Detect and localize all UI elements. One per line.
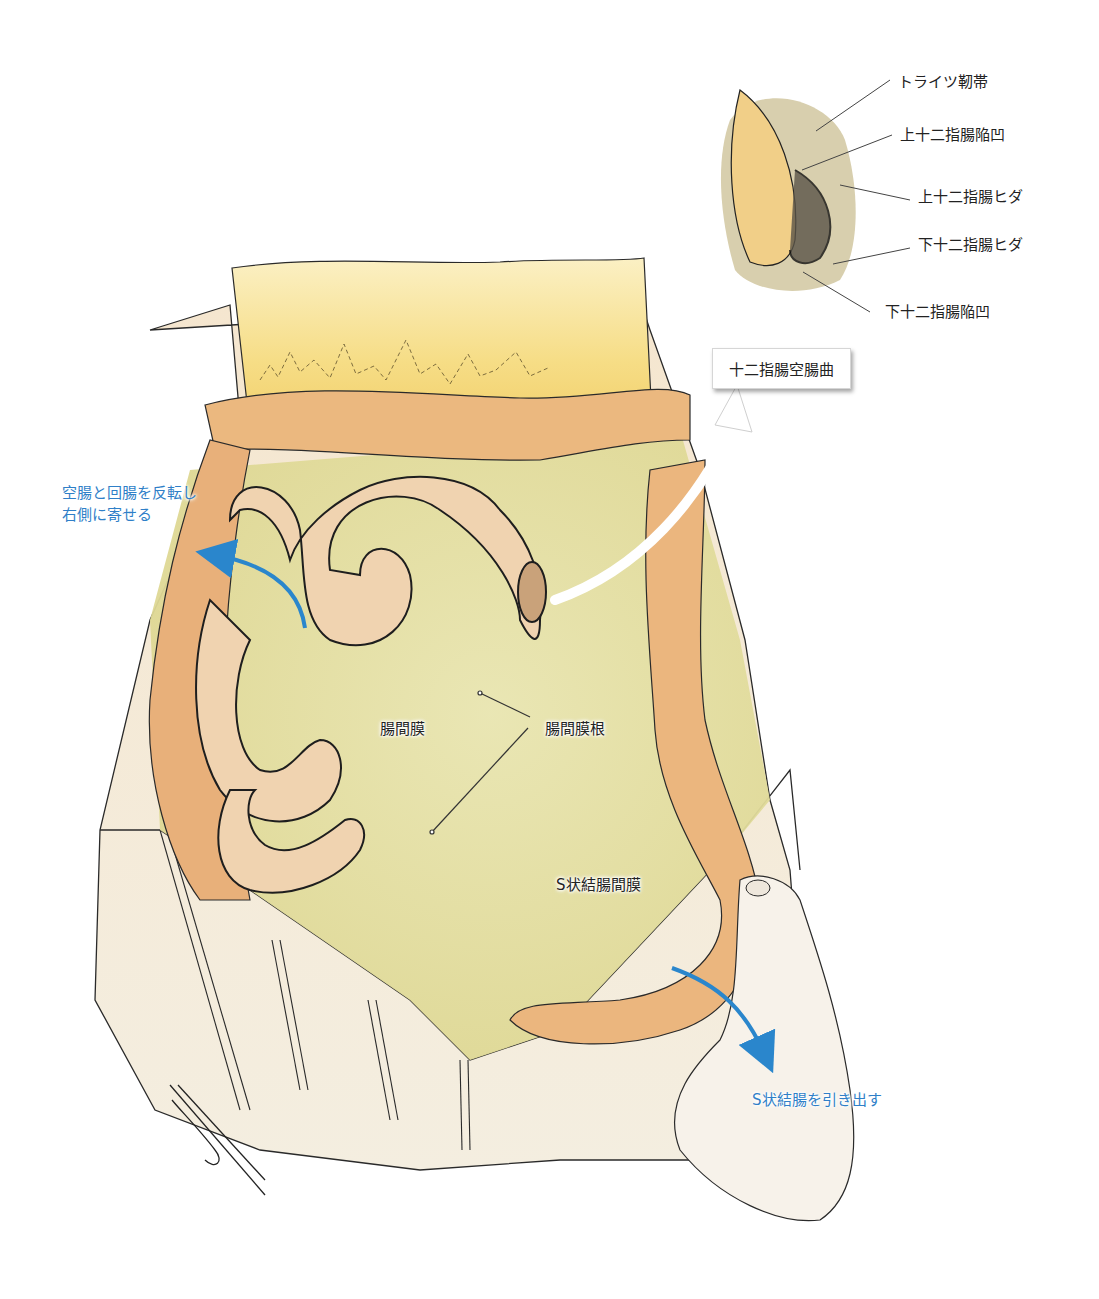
label-treitz-ligament: トライツ靭帯 <box>898 75 988 90</box>
label-mesentery: 腸間膜 <box>380 722 425 737</box>
label-sigmoid-mesocolon: S状結腸間膜 <box>556 878 641 893</box>
inset-duodenal-recesses <box>721 80 910 312</box>
label-mesentery-root: 腸間膜根 <box>545 722 605 737</box>
label-inferior-duodenal-recess: 下十二指腸陥凹 <box>885 305 990 320</box>
duodenojejunal-flexure <box>518 562 546 622</box>
label-superior-duodenal-fold: 上十二指腸ヒダ <box>918 190 1023 205</box>
label-superior-duodenal-recess: 上十二指腸陥凹 <box>900 128 1005 143</box>
instruction-pull-sigmoid: S状結腸を引き出す <box>752 1090 882 1112</box>
instruction-flip-small-bowel: 空腸と回腸を反転し 右側に寄せる <box>62 483 197 527</box>
instruction-flip-line1: 空腸と回腸を反転し <box>62 483 197 505</box>
instruction-flip-line2: 右側に寄せる <box>62 505 197 527</box>
callout-duodenojejunal-flexure: 十二指腸空腸曲 <box>712 348 851 389</box>
label-inferior-duodenal-fold: 下十二指腸ヒダ <box>918 238 1023 253</box>
